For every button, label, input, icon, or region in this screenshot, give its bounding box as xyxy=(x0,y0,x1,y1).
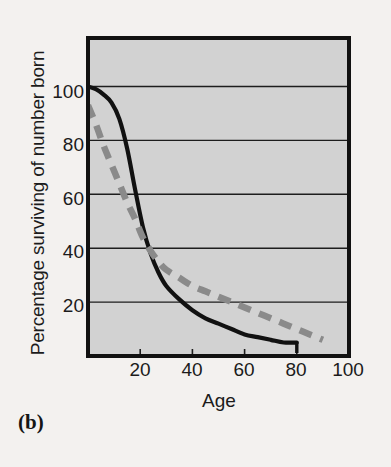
series-label-females: Females xyxy=(128,100,201,122)
y-axis-tick-labels: 100 80 60 40 20 xyxy=(24,0,84,467)
x-tick-label-60: 60 xyxy=(221,360,267,379)
x-tick-label-20: 20 xyxy=(117,360,163,379)
x-tick-label-100: 100 xyxy=(325,360,371,379)
figure-panel-b: Percentage surviving of number born 100 … xyxy=(0,0,391,467)
y-tick-label-20: 20 xyxy=(30,296,84,315)
plot-frame xyxy=(88,38,349,356)
x-tick-label-40: 40 xyxy=(169,360,215,379)
y-tick-label-100: 100 xyxy=(30,82,84,101)
x-tick-label-80: 80 xyxy=(273,360,319,379)
y-tick-label-40: 40 xyxy=(30,242,84,261)
plot-background xyxy=(88,38,349,356)
x-axis-title: Age xyxy=(88,390,350,412)
series-label-males: Males xyxy=(248,293,299,315)
y-tick-label-60: 60 xyxy=(30,189,84,208)
y-tick-label-80: 80 xyxy=(30,135,84,154)
panel-letter: (b) xyxy=(18,410,44,435)
